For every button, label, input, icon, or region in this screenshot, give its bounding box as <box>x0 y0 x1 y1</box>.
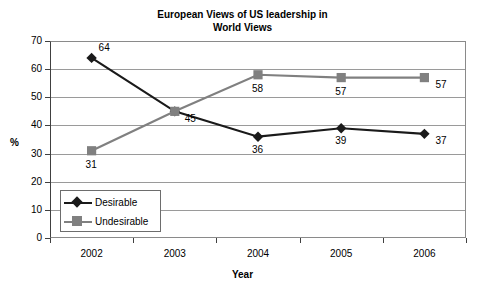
x-tick-mark <box>383 238 384 243</box>
x-tick-mark <box>216 238 217 243</box>
y-tick-label: 60 <box>8 64 42 74</box>
legend-key-diamond-icon <box>61 195 95 211</box>
y-tick-mark <box>45 125 50 126</box>
gridline <box>51 69 465 70</box>
x-tick-mark <box>300 238 301 243</box>
y-tick-mark <box>45 210 50 211</box>
y-tick-label: 10 <box>8 205 42 215</box>
x-tick-mark <box>133 238 134 243</box>
x-tick-label: 2005 <box>311 248 371 259</box>
data-point-label: 31 <box>86 159 97 170</box>
data-point-label: 64 <box>99 42 110 53</box>
x-tick-label: 2003 <box>145 248 205 259</box>
y-tick-mark <box>45 154 50 155</box>
y-tick-mark <box>45 182 50 183</box>
gridline <box>51 125 465 126</box>
y-tick-label: 20 <box>8 177 42 187</box>
x-tick-label: 2002 <box>62 248 122 259</box>
x-tick-label: 2004 <box>228 248 288 259</box>
data-point-label: 37 <box>435 135 446 146</box>
x-axis-label: Year <box>0 269 485 280</box>
legend-item-undesirable[interactable]: Undesirable <box>61 212 160 231</box>
legend-label-desirable: Desirable <box>95 198 137 208</box>
chart-title-line-2: World Views <box>0 21 485 34</box>
x-tick-mark <box>466 238 467 243</box>
data-point-label: 39 <box>335 135 346 146</box>
y-axis-label: % <box>10 137 19 148</box>
y-tick-label: 40 <box>8 120 42 130</box>
data-point-label: 45 <box>185 113 196 124</box>
legend-key-square-icon <box>61 214 95 230</box>
y-tick-mark <box>45 69 50 70</box>
data-point-label: 57 <box>335 86 346 97</box>
gridline <box>51 182 465 183</box>
x-tick-mark <box>50 238 51 243</box>
chart-title: European Views of US leadership in World… <box>0 8 485 34</box>
y-tick-label: 0 <box>8 233 42 243</box>
chart-title-line-1: European Views of US leadership in <box>0 8 485 21</box>
legend-label-undesirable: Undesirable <box>95 217 148 227</box>
y-tick-label: 70 <box>8 36 42 46</box>
data-point-label: 36 <box>252 144 263 155</box>
y-tick-label: 30 <box>8 149 42 159</box>
x-tick-label: 2006 <box>394 248 454 259</box>
legend-item-desirable[interactable]: Desirable <box>61 193 160 212</box>
chart-legend[interactable]: Desirable Undesirable <box>60 190 161 232</box>
line-chart: European Views of US leadership in World… <box>0 0 485 292</box>
y-tick-label: 50 <box>8 92 42 102</box>
data-point-label: 58 <box>252 83 263 94</box>
y-tick-mark <box>45 41 50 42</box>
data-point-label: 57 <box>435 79 446 90</box>
y-tick-mark <box>45 97 50 98</box>
gridline <box>51 97 465 98</box>
